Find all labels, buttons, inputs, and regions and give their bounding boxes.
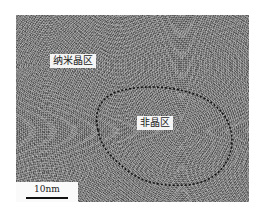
nanocrystalline-region-label: 纳米晶区 [50, 54, 96, 68]
amorphous-region-label: 非晶区 [137, 116, 173, 130]
tem-micrograph: 纳米晶区 非晶区 10nm [16, 15, 249, 202]
scale-bar-text: 10nm [16, 184, 78, 194]
scale-bar: 10nm [16, 182, 78, 202]
scale-bar-line [26, 197, 68, 199]
amorphous-region-outline [16, 15, 249, 202]
